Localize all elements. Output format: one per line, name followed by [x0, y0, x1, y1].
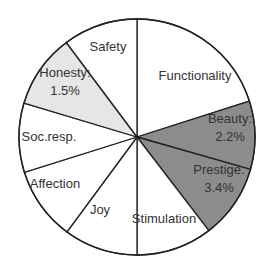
slice-label: Affection — [30, 176, 80, 191]
slice-label: Honesty: — [39, 65, 90, 80]
slice-label: Stimulation — [132, 211, 196, 226]
slice-value-label: 3.4% — [204, 180, 234, 195]
slice-value-label: 2.2% — [215, 129, 245, 144]
pie-chart: FunctionalityBeauty:2.2%Prestige:3.4%Sti… — [0, 0, 273, 269]
slice-label: Functionality — [159, 68, 232, 83]
slice-label: Safety — [90, 39, 127, 54]
slice-label: Beauty: — [208, 111, 252, 126]
slice-label: Prestige: — [193, 162, 244, 177]
slice-label: Soc.resp. — [22, 129, 77, 144]
slice-value-label: 1.5% — [50, 83, 80, 98]
slice-label: Joy — [90, 202, 111, 217]
